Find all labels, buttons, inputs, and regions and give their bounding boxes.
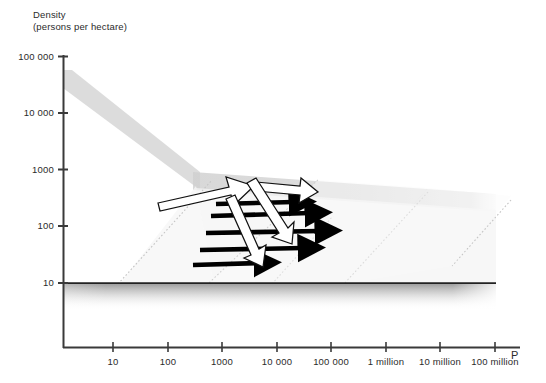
y-tick-label: 100 000: [18, 51, 54, 62]
black-arrow-5: [193, 263, 259, 265]
chart-canvas: Density (persons per hectare) P 100 0001…: [0, 0, 546, 383]
black-arrow-3: [206, 231, 320, 233]
x-tick-label: 100 million: [450, 356, 540, 367]
chart-plot-area: [0, 0, 546, 383]
black-arrow-2: [211, 213, 310, 216]
lower-threshold-group: [63, 283, 496, 310]
y-axis-title-line2: (persons per hectare): [33, 21, 127, 32]
lower-threshold-fade-mask: [63, 284, 496, 310]
y-tick-label: 100: [38, 220, 54, 231]
y-tick-label: 10 000: [24, 107, 54, 118]
y-tick-label: 10: [43, 277, 54, 288]
y-axis-title-line1: Density: [33, 9, 66, 20]
y-tick-label: 1000: [32, 164, 54, 175]
band-steep-segment: [63, 70, 200, 190]
